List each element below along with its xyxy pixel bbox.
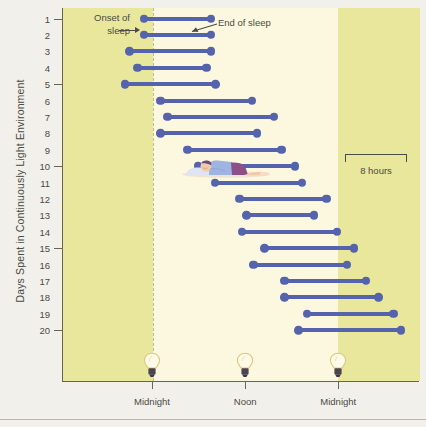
- bottom-divider: [0, 419, 426, 420]
- y-axis-tick-20: [54, 330, 62, 331]
- light-bulb-icon: [143, 352, 161, 378]
- x-axis-label-midnight-2: Midnight: [293, 396, 383, 407]
- y-axis-label-day-9: 9: [22, 144, 50, 155]
- sleep-chart-figure: Days Spent in Continuously Light Environ…: [0, 0, 426, 427]
- sleep-bar: [160, 99, 253, 103]
- sleep-bar: [264, 246, 355, 250]
- sleep-bar: [284, 279, 367, 283]
- x-axis-label-noon-1: Noon: [200, 396, 290, 407]
- sleep-bar: [306, 312, 394, 316]
- sleep-bar: [239, 197, 327, 201]
- dark-band-right: [338, 8, 420, 381]
- x-axis-tick-0: [152, 382, 153, 389]
- annotation-onset-of-sleep: Onset of sleep: [72, 11, 130, 37]
- arrow-right-icon: [119, 30, 139, 31]
- y-axis-label-day-15: 15: [22, 243, 50, 254]
- annotation-end-of-sleep: End of sleep: [218, 17, 271, 28]
- y-axis-label-day-20: 20: [22, 325, 50, 336]
- y-axis-label-day-19: 19: [22, 308, 50, 319]
- y-axis-label-day-7: 7: [22, 111, 50, 122]
- y-axis-label-day-2: 2: [22, 29, 50, 40]
- y-axis-label-day-3: 3: [22, 46, 50, 57]
- y-axis-label-day-6: 6: [22, 95, 50, 106]
- x-axis-label-midnight-0: Midnight: [107, 396, 197, 407]
- y-axis-label-day-13: 13: [22, 210, 50, 221]
- y-axis-label-day-5: 5: [22, 79, 50, 90]
- sleep-bar: [129, 49, 212, 53]
- y-axis-tick-15: [54, 248, 62, 249]
- y-axis-label-day-4: 4: [22, 62, 50, 73]
- sleep-bar: [124, 82, 216, 86]
- sleep-bar: [187, 148, 282, 152]
- y-axis-label-day-8: 8: [22, 128, 50, 139]
- y-axis-tick-5: [54, 84, 62, 85]
- y-axis-label-day-1: 1: [22, 13, 50, 24]
- sleeping-person-icon: [176, 155, 276, 179]
- y-axis-label-day-11: 11: [22, 177, 50, 188]
- y-axis-label-day-10: 10: [22, 161, 50, 172]
- sleep-bar: [298, 328, 402, 332]
- y-axis-label-day-14: 14: [22, 226, 50, 237]
- scale-bar-label: 8 hours: [340, 165, 412, 176]
- sleep-bar: [137, 66, 208, 70]
- sleep-bar: [160, 131, 258, 135]
- y-axis-label-day-16: 16: [22, 259, 50, 270]
- y-axis-tick-10: [54, 166, 62, 167]
- light-bulb-icon: [236, 352, 254, 378]
- sleep-bar: [167, 115, 275, 119]
- x-axis-tick-2: [338, 382, 339, 389]
- light-bulb-icon: [329, 352, 347, 378]
- arrow-pointer-icon: [186, 23, 218, 33]
- y-axis-label-day-17: 17: [22, 275, 50, 286]
- sleep-bar: [253, 263, 348, 267]
- sleep-bar: [143, 33, 211, 37]
- scale-bar-8-hours: [345, 154, 407, 162]
- y-axis-label-day-18: 18: [22, 292, 50, 303]
- sleep-bar: [241, 230, 337, 234]
- annotation-onset-line2: sleep: [72, 24, 130, 37]
- y-axis-tick-1: [54, 19, 62, 20]
- annotation-onset-line1: Onset of: [72, 11, 130, 24]
- midnight-guide-line: [153, 8, 154, 381]
- sleep-bar: [246, 213, 315, 217]
- sleep-bar: [143, 17, 211, 21]
- sleep-bar: [214, 181, 302, 185]
- x-axis-tick-1: [245, 382, 246, 389]
- y-axis-label-day-12: 12: [22, 193, 50, 204]
- sleep-bar: [284, 295, 379, 299]
